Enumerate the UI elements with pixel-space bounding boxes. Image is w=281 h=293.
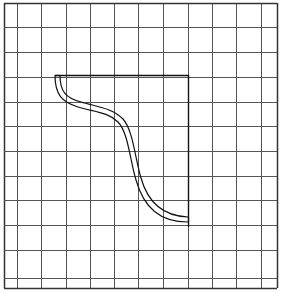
- curve-inner-line: [60, 75, 188, 217]
- curve-outer-line: [55, 75, 188, 222]
- grid-diagram: [0, 0, 281, 293]
- grid-lines: [4, 3, 278, 289]
